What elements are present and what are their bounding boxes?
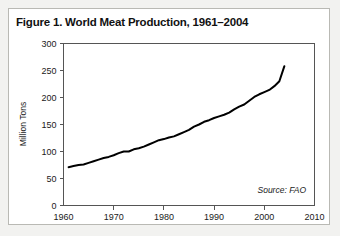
y-tick-label: 50 [46, 174, 56, 184]
x-axis-ticks: 196019701980199020002010 [53, 206, 324, 222]
x-tick-label: 1970 [104, 212, 124, 222]
x-tick-label: 1980 [154, 212, 174, 222]
x-tick-label: 2000 [254, 212, 274, 222]
x-tick-label: 1960 [53, 212, 73, 222]
y-tick-label: 0 [51, 201, 56, 211]
figure-card: Figure 1. World Meat Production, 1961–20… [8, 8, 330, 225]
plot-frame [64, 44, 315, 206]
x-tick-label: 2010 [304, 212, 324, 222]
y-tick-label: 200 [41, 93, 56, 103]
source-annotation: Source: FAO [258, 185, 307, 195]
y-tick-label: 250 [41, 66, 56, 76]
data-series-line [69, 66, 285, 167]
line-chart: 050100150200250300 196019701980199020002… [9, 29, 331, 225]
x-tick-label: 1990 [204, 212, 224, 222]
y-tick-label: 300 [41, 39, 56, 49]
y-axis-ticks: 050100150200250300 [41, 39, 63, 211]
y-tick-label: 150 [41, 120, 56, 130]
chart-plot-area: 050100150200250300 196019701980199020002… [9, 29, 331, 225]
page-title: Figure 1. World Meat Production, 1961–20… [16, 16, 316, 28]
y-tick-label: 100 [41, 147, 56, 157]
y-axis-title: Million Tons [18, 102, 28, 146]
